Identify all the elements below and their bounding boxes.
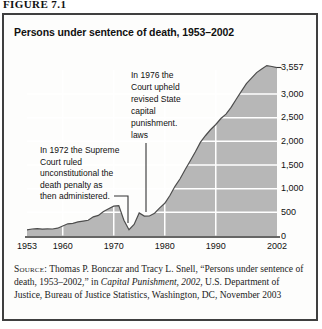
source-note: Source: Thomas P. Bonczar and Tracy L. S…	[14, 263, 306, 302]
figure-label: FIGURE 7.1	[3, 0, 66, 10]
annotation-1976-ruling: In 1976 the Court upheld revised State c…	[131, 69, 211, 141]
figure-page: FIGURE 7.1 Persons under sentence of dea…	[0, 0, 322, 329]
chart-title: Persons under sentence of death, 1953–20…	[14, 26, 234, 38]
source-label: Source:	[14, 264, 47, 274]
annotation-1972-ruling: In 1972 the Supreme Court ruled unconsti…	[40, 145, 150, 203]
source-italic-title: Capital Punishment, 2002	[101, 277, 201, 287]
